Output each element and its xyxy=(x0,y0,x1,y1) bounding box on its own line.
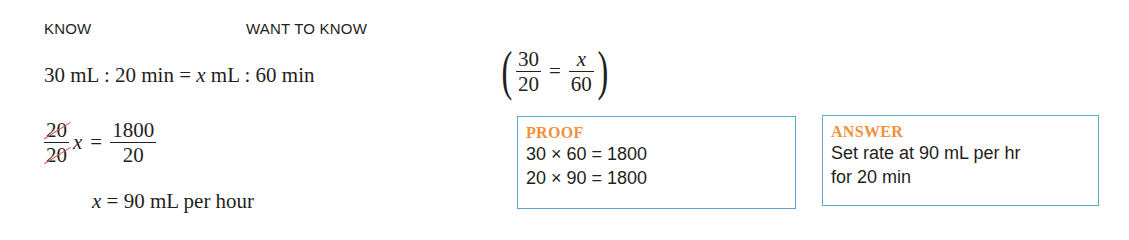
proportion-variable: x xyxy=(196,63,205,87)
result-equals: = xyxy=(107,189,119,213)
answer-line-2: for 20 min xyxy=(831,165,1098,189)
proportion-right-unit: mL xyxy=(211,63,239,87)
close-paren: ) xyxy=(597,44,608,98)
proportion-colon-right: : xyxy=(244,63,250,87)
want-to-know-header: WANT TO KNOW xyxy=(246,20,367,37)
fraction-equals: = xyxy=(549,59,561,84)
rhs-fraction: 1800 20 xyxy=(110,118,156,167)
proof-line-2: 20 × 90 = 1800 xyxy=(526,166,795,190)
know-header: KNOW xyxy=(44,20,91,37)
solve-equation: 20 20 x = 1800 20 xyxy=(44,118,156,167)
proportion-left-time: 20 min xyxy=(115,63,174,87)
fraction-check: ( 30 20 = x 60 ) xyxy=(498,44,612,98)
fraction-right-denominator: 60 xyxy=(569,72,594,96)
result-equation: x = 90 mL per hour xyxy=(92,189,254,214)
answer-line-1: Set rate at 90 mL per hr xyxy=(831,141,1098,165)
solve-equals: = xyxy=(90,130,102,155)
proof-title: PROOF xyxy=(526,124,795,142)
fraction-left-denominator: 20 xyxy=(516,72,541,96)
cancelled-denominator: 20 xyxy=(46,143,67,167)
rhs-numerator: 1800 xyxy=(110,118,156,142)
proportion-left-qty: 30 mL xyxy=(44,63,99,87)
rhs-denominator: 20 xyxy=(121,143,146,167)
answer-box: ANSWER Set rate at 90 mL per hr for 20 m… xyxy=(822,115,1099,206)
fraction-right: x 60 xyxy=(569,47,594,96)
proportion-equation: 30 mL : 20 min = x mL : 60 min xyxy=(44,63,314,88)
proof-line-1: 30 × 60 = 1800 xyxy=(526,142,795,166)
cancelled-numerator: 20 xyxy=(46,118,67,142)
proportion-right-time: 60 min xyxy=(256,63,315,87)
answer-title: ANSWER xyxy=(831,123,1098,141)
result-value: 90 mL per hour xyxy=(124,189,254,213)
proof-box: PROOF 30 × 60 = 1800 20 × 90 = 1800 xyxy=(517,116,796,209)
proportion-equals: = xyxy=(179,63,191,87)
cancel-fraction: 20 20 xyxy=(44,118,69,167)
fraction-left: 30 20 xyxy=(516,47,541,96)
result-variable: x xyxy=(92,189,101,213)
open-paren: ( xyxy=(502,44,513,98)
fraction-left-numerator: 30 xyxy=(516,47,541,71)
fraction-right-numerator: x xyxy=(575,47,588,71)
solve-variable: x xyxy=(73,130,82,155)
proportion-colon-left: : xyxy=(104,63,110,87)
